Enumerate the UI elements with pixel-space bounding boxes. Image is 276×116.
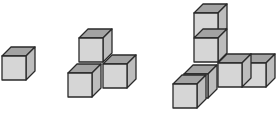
cube bbox=[103, 55, 136, 88]
cube-front-face bbox=[79, 38, 103, 62]
figure-1 bbox=[2, 47, 35, 80]
diagram-canvas bbox=[0, 0, 276, 116]
cube-front-face bbox=[103, 64, 127, 88]
figure-2 bbox=[68, 29, 136, 97]
figure-3 bbox=[173, 4, 275, 108]
cube bbox=[79, 29, 112, 62]
cube bbox=[218, 54, 251, 87]
cube-front-face bbox=[68, 73, 92, 97]
cube-front-face bbox=[2, 56, 26, 80]
cube bbox=[173, 75, 206, 108]
cube bbox=[68, 64, 101, 97]
cube bbox=[194, 29, 227, 62]
cube-pattern-svg bbox=[0, 0, 276, 116]
cube-front-face bbox=[218, 63, 242, 87]
cube-front-face bbox=[173, 84, 197, 108]
cube-front-face bbox=[194, 38, 218, 62]
cube bbox=[2, 47, 35, 80]
